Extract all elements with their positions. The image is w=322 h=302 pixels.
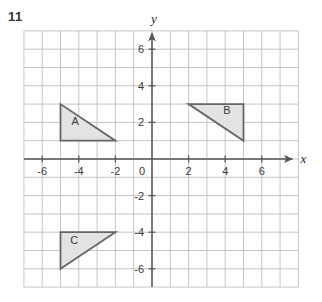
x-tick-label: -4 <box>74 165 84 177</box>
y-tick-label: 6 <box>138 43 144 55</box>
x-tick-label: -6 <box>37 165 47 177</box>
y-axis-name: y <box>149 11 157 26</box>
triangle-label-c: C <box>70 234 78 246</box>
x-tick-label: 0 <box>139 165 145 177</box>
coordinate-plane-figure: -6-4-20246642-2-4-6 ABC xy <box>0 0 322 302</box>
x-axis-name: x <box>300 151 307 166</box>
y-tick-label: 2 <box>138 116 144 128</box>
y-tick-label: 4 <box>138 80 144 92</box>
coordinate-grid-svg: -6-4-20246642-2-4-6 ABC xy <box>0 0 322 302</box>
triangle-label-a: A <box>71 115 79 127</box>
y-tick-label: -4 <box>134 226 144 238</box>
y-tick-label: -6 <box>134 263 144 275</box>
axis-names: xy <box>149 11 306 166</box>
y-tick-label: -2 <box>134 190 144 202</box>
x-tick-label: 4 <box>222 165 228 177</box>
triangle-label-b: B <box>223 104 230 116</box>
x-tick-label: -2 <box>111 165 121 177</box>
x-tick-label: 2 <box>186 165 192 177</box>
x-tick-label: 6 <box>259 165 265 177</box>
